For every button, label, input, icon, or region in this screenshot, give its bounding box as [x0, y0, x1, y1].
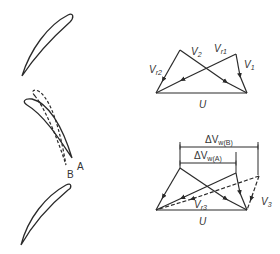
velocity-triangle-diagram: A B Vr2 V2 Vr1 V1 U: [0, 0, 280, 254]
label-delta-vw-a: ΔVw(A): [194, 150, 222, 163]
label-v-r1: Vr1: [214, 43, 227, 55]
label-u-bottom: U: [199, 216, 207, 227]
blade-bottom: [21, 184, 71, 245]
blade-label-a: A: [77, 161, 84, 172]
triangle-bottom-labels: ΔVw(B) ΔVw(A) Vr3 V3 U: [194, 134, 272, 227]
label-v-3: V3: [261, 196, 272, 208]
label-v-r3: Vr3: [194, 199, 207, 211]
label-v-1: V1: [244, 59, 255, 71]
blade-middle-solid-a: [24, 99, 72, 158]
label-v-2: V2: [191, 46, 202, 58]
label-v-r2: Vr2: [149, 64, 162, 76]
velocity-triangle-bottom: [156, 142, 259, 210]
label-u-top: U: [199, 99, 207, 110]
blade-top: [22, 14, 73, 76]
blade-label-b: B: [67, 169, 74, 180]
label-delta-vw-b: ΔVw(B): [205, 134, 233, 147]
